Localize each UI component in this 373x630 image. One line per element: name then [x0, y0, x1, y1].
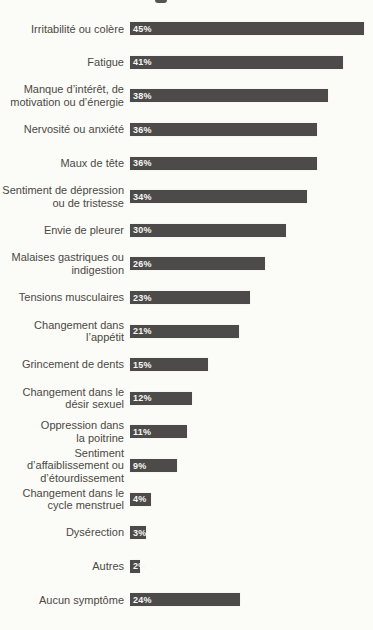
bar-track: 36%	[130, 123, 373, 136]
category-label: Autres	[0, 560, 124, 573]
bar: 2%	[130, 560, 140, 573]
bar: 4%	[130, 493, 151, 506]
bar: 24%	[130, 593, 240, 606]
bar-value-label: 21%	[130, 326, 152, 336]
bar: 26%	[130, 257, 265, 270]
bar-track: 11%	[130, 425, 373, 438]
bar: 23%	[130, 291, 250, 304]
category-label: Sentiment de dépressionou de tristesse	[0, 184, 124, 209]
category-label: Changement dans lecycle menstruel	[0, 487, 124, 512]
category-label: Oppression dansla poitrine	[0, 419, 124, 444]
chart-row: Malaises gastriques ouindigestion 26%	[0, 247, 373, 281]
chart-row: Oppression dansla poitrine 11%	[0, 415, 373, 449]
chart-row: Fatigue 41%	[0, 46, 373, 80]
bar: 3%	[130, 526, 146, 539]
bar: 15%	[130, 358, 208, 371]
category-label: Irritabilité ou colère	[0, 23, 124, 36]
bar: 21%	[130, 325, 239, 338]
category-label: Changement dansl’appétit	[0, 319, 124, 344]
cropped-title-remnant	[155, 0, 167, 3]
category-label: Sentimentd’affaiblissement oud’étourdiss…	[0, 447, 124, 485]
category-label: Maux de tête	[0, 157, 124, 170]
chart-row: Autres 2%	[0, 550, 373, 584]
bar-value-label: 2%	[130, 561, 146, 571]
bar-value-label: 45%	[130, 24, 152, 34]
bar-value-label: 12%	[130, 393, 152, 403]
bar-value-label: 3%	[130, 528, 146, 538]
bar: 11%	[130, 425, 187, 438]
category-label: Tensions musculaires	[0, 291, 124, 304]
bar-value-label: 11%	[130, 427, 151, 437]
category-label: Grincement de dents	[0, 358, 124, 371]
bar-track: 21%	[130, 325, 373, 338]
bar-value-label: 41%	[130, 57, 152, 67]
chart-row: Changement dans lecycle menstruel 4%	[0, 482, 373, 516]
bar: 45%	[130, 22, 364, 35]
chart-row: Tensions musculaires 23%	[0, 281, 373, 315]
chart-row: Maux de tête 36%	[0, 146, 373, 180]
bar-value-label: 26%	[130, 259, 152, 269]
chart-row: Irritabilité ou colère 45%	[0, 12, 373, 46]
category-label: Changement dans ledésir sexuel	[0, 386, 124, 411]
bar: 12%	[130, 392, 192, 405]
chart-row: Aucun symptôme 24%	[0, 583, 373, 617]
bar-track: 9%	[130, 459, 373, 472]
chart-row: Sentiment de dépressionou de tristesse 3…	[0, 180, 373, 214]
symptoms-bar-chart: Irritabilité ou colère 45% Fatigue 41% M…	[0, 12, 373, 617]
bar-track: 41%	[130, 56, 373, 69]
bar-value-label: 23%	[130, 293, 152, 303]
bar-track: 12%	[130, 392, 373, 405]
bar-track: 2%	[130, 560, 373, 573]
bar-value-label: 30%	[130, 225, 152, 235]
bar-track: 45%	[130, 22, 373, 35]
bar: 9%	[130, 459, 177, 472]
bar-value-label: 38%	[130, 91, 152, 101]
bar-value-label: 36%	[130, 158, 152, 168]
bar: 38%	[130, 89, 328, 102]
category-label: Aucun symptôme	[0, 594, 124, 607]
chart-row: Dysérection 3%	[0, 516, 373, 550]
category-label: Fatigue	[0, 56, 124, 69]
bar: 41%	[130, 56, 343, 69]
chart-row: Nervosité ou anxiété 36%	[0, 113, 373, 147]
category-label: Manque d’intérêt, demotivation ou d’éner…	[0, 83, 124, 108]
bar-track: 4%	[130, 493, 373, 506]
bar-track: 36%	[130, 157, 373, 170]
bar-track: 34%	[130, 190, 373, 203]
bar-value-label: 4%	[130, 494, 146, 504]
bar-track: 30%	[130, 224, 373, 237]
bar-track: 24%	[130, 593, 373, 606]
chart-row: Envie de pleurer 30%	[0, 214, 373, 248]
category-label: Envie de pleurer	[0, 224, 124, 237]
bar-value-label: 15%	[130, 360, 152, 370]
chart-row: Manque d’intérêt, demotivation ou d’éner…	[0, 79, 373, 113]
bar-track: 26%	[130, 257, 373, 270]
category-label: Nervosité ou anxiété	[0, 123, 124, 136]
bar: 36%	[130, 157, 317, 170]
bar-track: 15%	[130, 358, 373, 371]
bar-track: 38%	[130, 89, 373, 102]
bar-track: 3%	[130, 526, 373, 539]
bar-value-label: 24%	[130, 595, 152, 605]
chart-row: Grincement de dents 15%	[0, 348, 373, 382]
bar-value-label: 34%	[130, 192, 152, 202]
chart-row: Changement dansl’appétit 21%	[0, 314, 373, 348]
bar-value-label: 9%	[130, 461, 146, 471]
bar-value-label: 36%	[130, 125, 152, 135]
bar-track: 23%	[130, 291, 373, 304]
chart-row: Sentimentd’affaiblissement oud’étourdiss…	[0, 449, 373, 483]
bar: 34%	[130, 190, 307, 203]
bar: 30%	[130, 224, 286, 237]
category-label: Malaises gastriques ouindigestion	[0, 251, 124, 276]
category-label: Dysérection	[0, 526, 124, 539]
chart-row: Changement dans ledésir sexuel 12%	[0, 382, 373, 416]
bar: 36%	[130, 123, 317, 136]
